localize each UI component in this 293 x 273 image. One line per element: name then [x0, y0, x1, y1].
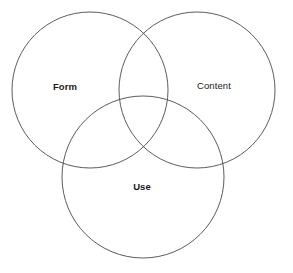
- label-form: Form: [53, 82, 77, 92]
- venn-diagram: Form Content Use: [0, 0, 293, 273]
- venn-diagram-canvas: [0, 0, 293, 273]
- circle-use: [62, 96, 224, 258]
- label-content: Content: [197, 81, 231, 91]
- label-use: Use: [133, 182, 151, 192]
- circle-form: [12, 12, 168, 168]
